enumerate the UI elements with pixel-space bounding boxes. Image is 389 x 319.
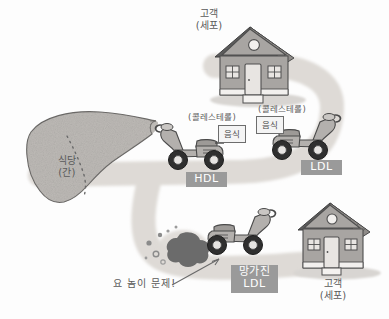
liver-label-line2: (간) <box>44 167 90 179</box>
house-bottom-label-line2: (세포) <box>304 290 362 302</box>
badge-hdl-line1: HDL <box>186 173 227 185</box>
badge-ldl: LDL <box>301 160 342 175</box>
diagram-canvas: 식당 (간) 고객 (세포) 고객 (세포) (콜레스테롤) (콜레스테롤) 음… <box>0 0 389 319</box>
liver-label-line1: 식당 <box>44 155 90 167</box>
liver-label: 식당 (간) <box>44 155 90 178</box>
house-bottom-label: 고객 (세포) <box>304 278 362 301</box>
house-top-label-line1: 고객 <box>180 8 238 20</box>
house-top-label-line2: (세포) <box>180 20 238 32</box>
food-box-hdl: 음식 <box>218 125 246 143</box>
badge-broken-ldl: 망가진 LDL <box>231 265 278 293</box>
cholesterol-label-ldl: (콜레스테롤) <box>258 105 306 115</box>
food-box-ldl: 음식 <box>256 116 284 134</box>
house-bottom <box>293 203 381 280</box>
badge-hdl: HDL <box>186 172 227 187</box>
annotation-text: 요 놈이 문제! <box>113 278 176 290</box>
badge-broken-ldl-line2: LDL <box>231 278 278 290</box>
house-bottom-label-line1: 고객 <box>304 278 362 290</box>
badge-ldl-line1: LDL <box>301 161 342 173</box>
house-top-label: 고객 (세포) <box>180 8 238 31</box>
cholesterol-label-hdl: (콜레스테롤) <box>188 113 236 123</box>
